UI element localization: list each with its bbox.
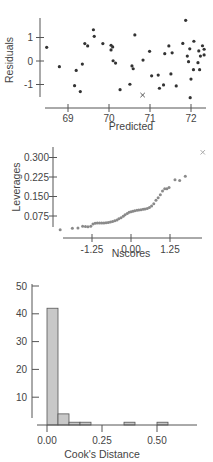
y-tick-label: 0 [27, 56, 33, 67]
histogram-bar [58, 414, 69, 425]
y-axis: 10-1 [24, 18, 44, 97]
y-tick-label: 50 [16, 281, 28, 292]
data-point [58, 65, 61, 68]
data-point [178, 179, 181, 182]
data-point [181, 42, 184, 45]
x-tick-label: 1.25 [160, 244, 180, 255]
data-point [118, 88, 121, 91]
data-point [128, 83, 131, 86]
data-point [114, 62, 117, 65]
data-point [175, 84, 178, 87]
x-tick-label: -1.25 [81, 244, 104, 255]
data-point [111, 45, 114, 48]
y-tick-label: -1 [24, 79, 33, 90]
y-axis-title: Residuals [3, 37, 15, 83]
residuals-vs-predicted-chart: 10-1 69707172 Residuals Predicted [0, 0, 213, 130]
data-point [76, 226, 79, 229]
data-point [83, 42, 86, 45]
data-point [162, 83, 165, 86]
data-point [199, 54, 202, 57]
data-point [184, 175, 187, 178]
data-point [150, 74, 153, 77]
data-point [159, 193, 162, 196]
data-point [161, 190, 164, 193]
y-tick-label: 0.225 [24, 172, 49, 183]
data-point [141, 58, 144, 61]
data-point [167, 44, 170, 47]
y-axis: 0.3000.2250.1500.075 [24, 147, 57, 227]
data-point [189, 96, 192, 99]
data-point [81, 62, 84, 65]
data-point [189, 77, 192, 80]
data-point [188, 47, 191, 50]
data-point [192, 40, 195, 43]
histogram-bar [47, 308, 58, 425]
data-point [59, 228, 62, 231]
data-point [81, 225, 84, 228]
data-points [45, 19, 206, 100]
data-point [45, 46, 48, 49]
data-point [184, 19, 187, 22]
data-point [79, 90, 82, 93]
y-tick-label: 10 [16, 392, 28, 403]
x-axis-title: Nscores [112, 247, 151, 259]
y-tick-label: 0.075 [24, 211, 49, 222]
histogram-bars [47, 308, 168, 425]
x-axis-title: Predicted [109, 120, 154, 130]
y-tick-label: 30 [16, 336, 28, 347]
data-point [203, 48, 206, 51]
data-point [168, 186, 171, 189]
data-point [203, 53, 206, 56]
x-tick-label: 0.50 [147, 435, 167, 446]
x-tick-label: 72 [185, 113, 197, 124]
data-point [157, 196, 160, 199]
data-point [171, 51, 174, 54]
data-point [157, 74, 160, 77]
data-point [154, 199, 157, 202]
data-point [163, 52, 166, 55]
data-point [187, 60, 190, 63]
data-point [186, 54, 189, 57]
x-tick-label: 0.25 [92, 435, 112, 446]
y-tick-label: 40 [16, 308, 28, 319]
data-point [71, 227, 74, 230]
data-point [158, 87, 161, 90]
cooks-distance-histogram: 5040302010 0.000.250.50 Cook's Distance [0, 260, 213, 462]
data-point [192, 68, 195, 71]
data-point [109, 48, 112, 51]
data-point [197, 49, 200, 52]
y-axis: 5040302010 [16, 281, 39, 419]
data-point [198, 68, 201, 71]
data-point [173, 178, 176, 181]
data-point [73, 84, 76, 87]
data-point [93, 35, 96, 38]
data-point [150, 205, 153, 208]
y-axis-title: Leverages [10, 162, 22, 211]
y-tick-label: 0.150 [24, 191, 49, 202]
data-points [59, 150, 205, 231]
x-tick-label: 0.00 [37, 435, 57, 446]
data-point [152, 202, 155, 205]
x-axis: 0.000.250.50 [37, 425, 197, 446]
data-point [75, 69, 78, 72]
data-point [196, 61, 199, 64]
data-point [201, 44, 204, 47]
y-tick-label: 20 [16, 364, 28, 375]
data-point [89, 225, 92, 228]
leverages-vs-nscores-chart: 0.3000.2250.1500.075 -1.250.001.25 Lever… [0, 130, 213, 260]
data-point [86, 44, 89, 47]
data-point [86, 225, 89, 228]
data-point [112, 59, 115, 62]
data-point [148, 50, 151, 53]
y-tick-label: 0.300 [24, 152, 49, 163]
y-tick-label: 1 [27, 32, 33, 43]
data-point [101, 42, 104, 45]
data-point [132, 67, 135, 70]
data-point [133, 33, 136, 36]
data-point [130, 64, 133, 67]
outlier-x-marker [201, 150, 205, 154]
data-point [169, 72, 172, 75]
x-axis-title: Cook's Distance [64, 448, 140, 460]
x-tick-label: 69 [62, 113, 74, 124]
data-point [92, 28, 95, 31]
